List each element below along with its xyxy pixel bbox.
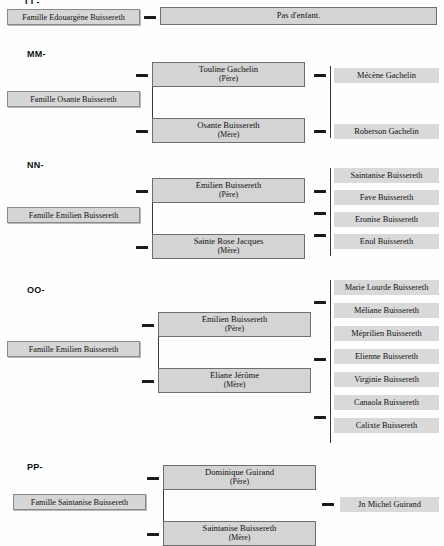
parent-role: (Mère) [218, 247, 240, 256]
parent-role: (Père) [219, 75, 238, 84]
parent-box-pp-father: Dominique Guirand (Père) [163, 465, 316, 490]
parent-role: (Père) [219, 191, 238, 200]
connector-dash-mm-mother [136, 130, 148, 133]
section-label-oo: OO- [27, 285, 45, 295]
parent-box-pp-mother: Saintanise Buissereth (Mère) [163, 521, 316, 546]
family-box-emilien-nn[interactable]: Famille Emilien Buissereth [7, 207, 140, 223]
child-box-jn-michel[interactable]: Jn Michel Guirand [340, 497, 439, 512]
child-box-virginie[interactable]: Virginie Buissereth [334, 372, 439, 387]
parent-box-oo-mother: Eliane Jérôme (Mère) [158, 368, 311, 393]
child-box-mecene[interactable]: Mécène Gachelin [334, 68, 439, 83]
child-box-marie-lourde[interactable]: Marie Lourde Buissereth [334, 280, 439, 295]
note-text: Pas d'enfant. [277, 11, 321, 21]
family-box-osante[interactable]: Famille Osante Buissereth [7, 91, 140, 107]
section-label-nn: NN- [27, 160, 44, 170]
children-spine-mm [330, 66, 331, 138]
children-spine-nn [330, 168, 331, 256]
parent-role: (Père) [230, 478, 249, 487]
connector-dash-nn-child-b [314, 212, 326, 215]
connector-dash-ll [144, 16, 156, 19]
children-spine-oo [330, 280, 331, 443]
connector-dash-oo-child-c [314, 416, 326, 419]
child-box-canaola[interactable]: Canaola Buissereth [334, 395, 439, 410]
connector-dash-mm-child-2 [314, 130, 326, 133]
connector-dash-nn-mother [136, 246, 148, 249]
child-box-fave[interactable]: Fave Buissereth [334, 190, 439, 205]
connector-dash-mm-father [136, 74, 148, 77]
parent-role: (Mère) [229, 534, 251, 543]
section-label-pp: PP- [27, 462, 43, 472]
parent-box-nn-father: Emilien Buissereth (Père) [152, 178, 305, 203]
parent-box-mm-mother: Osante Buissereth (Mère) [152, 118, 305, 143]
family-box-edouargene[interactable]: Famille Edouargène Buissereth [7, 9, 140, 25]
connector-dash-pp-mother [147, 533, 159, 536]
connector-dash-mm-child-1 [314, 74, 326, 77]
family-box-saintanise[interactable]: Famille Saintanise Buissereth [13, 494, 146, 510]
section-label-ll-cropped: LL- [25, 0, 65, 4]
connector-dash-pp-child [322, 503, 334, 506]
connector-dash-oo-child-b [314, 358, 326, 361]
connector-dash-nn-child-a [314, 190, 326, 193]
child-box-saintanise[interactable]: Saintanise Buissereth [334, 168, 439, 183]
connector-dash-oo-father [142, 324, 154, 327]
child-box-meprilien[interactable]: Méprilien Buissereth [334, 326, 439, 341]
parent-box-oo-father: Emilien Buissereth (Père) [158, 312, 311, 337]
parent-role: (Mère) [218, 131, 240, 140]
child-box-eronise[interactable]: Eronise Buissereth [334, 212, 439, 227]
parent-role: (Mère) [224, 381, 246, 390]
connector-dash-oo-child-a [314, 301, 326, 304]
child-box-elienne[interactable]: Elienne Buissereth [334, 349, 439, 364]
connector-dash-oo-mother [142, 380, 154, 383]
child-box-enol[interactable]: Enol Buissereth [334, 234, 439, 249]
parent-box-nn-mother: Sainte Rose Jacques (Mère) [152, 234, 305, 259]
family-box-emilien-oo[interactable]: Famille Emilien Buissereth [7, 341, 140, 357]
child-box-calixte[interactable]: Calixte Buissereth [334, 418, 439, 433]
child-box-meliane[interactable]: Méliane Buissereth [334, 303, 439, 318]
note-box-no-children: Pas d'enfant. [160, 7, 437, 25]
parent-role: (Père) [225, 325, 244, 334]
connector-dash-nn-father [136, 190, 148, 193]
connector-dash-pp-father [147, 477, 159, 480]
parent-box-mm-father: Touline Gachelin (Père) [152, 62, 305, 87]
connector-dash-nn-child-c [314, 234, 326, 237]
section-label-mm: MM- [27, 49, 46, 59]
child-box-roberson[interactable]: Roberson Gachelin [334, 124, 439, 139]
